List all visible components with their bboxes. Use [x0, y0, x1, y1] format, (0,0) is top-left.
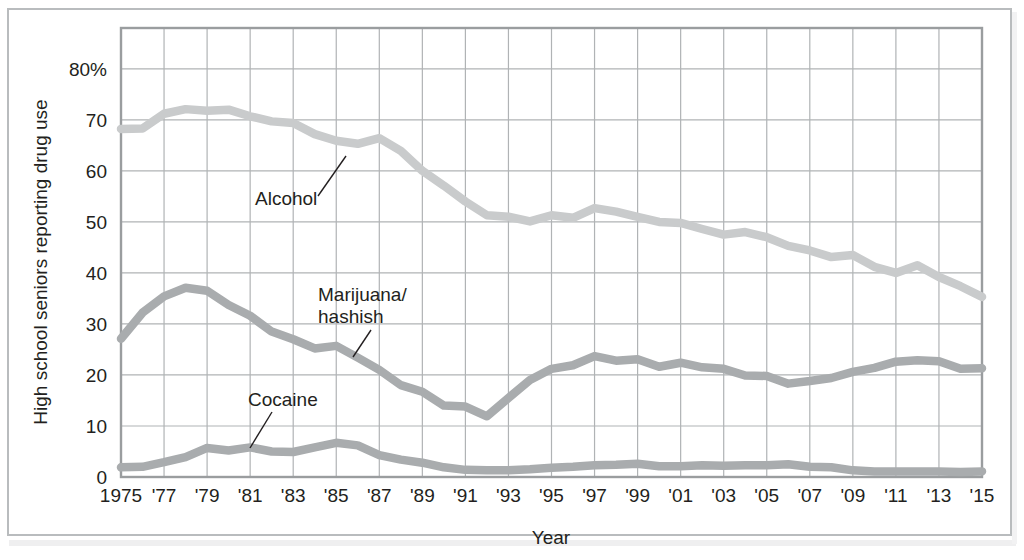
x-tick-label: '05: [754, 485, 779, 506]
y-tick-label: 10: [86, 416, 107, 437]
x-tick-label: '95: [539, 485, 564, 506]
y-tick-label: 80%: [69, 59, 107, 80]
x-tick-label: '99: [625, 485, 650, 506]
x-tick-label: '97: [582, 485, 607, 506]
y-axis-tick-labels: 01020304050607080%: [69, 59, 107, 488]
line-chart: 01020304050607080% 1975'77'79'81'83'85'8…: [0, 0, 1024, 560]
y-tick-label: 50: [86, 212, 107, 233]
annotation-label-alcohol: Alcohol: [255, 188, 317, 209]
y-tick-label: 40: [86, 263, 107, 284]
x-tick-label: '81: [238, 485, 263, 506]
x-tick-label: 1975: [100, 485, 142, 506]
annotation-label-marijuana: Marijuana/: [318, 284, 407, 305]
x-tick-label: '93: [496, 485, 521, 506]
x-tick-label: '11: [884, 485, 907, 506]
x-tick-label: '01: [668, 485, 693, 506]
y-axis-title: High school seniors reporting drug use: [30, 99, 51, 424]
leader-line-alcohol: [318, 156, 346, 196]
x-tick-label: '09: [840, 485, 865, 506]
figure-container: 01020304050607080% 1975'77'79'81'83'85'8…: [0, 0, 1024, 560]
leader-line-marijuana: [353, 330, 371, 357]
y-tick-label: 20: [86, 365, 107, 386]
leader-line-cocaine: [250, 412, 272, 448]
x-tick-label: '79: [195, 485, 220, 506]
x-tick-label: '83: [281, 485, 306, 506]
x-axis-title: Year: [532, 527, 571, 548]
x-tick-label: '91: [453, 485, 478, 506]
annotation-label-cocaine: Cocaine: [248, 389, 318, 410]
y-tick-label: 30: [86, 314, 107, 335]
x-tick-label: '77: [152, 485, 177, 506]
x-tick-label: '07: [797, 485, 822, 506]
x-tick-label: '13: [927, 485, 952, 506]
x-tick-label: '89: [410, 485, 435, 506]
y-tick-label: 70: [86, 110, 107, 131]
x-tick-label: '85: [324, 485, 349, 506]
x-axis-tick-labels: 1975'77'79'81'83'85'87'89'91'93'95'97'99…: [100, 485, 995, 506]
annotation-label-marijuana2: hashish: [318, 306, 384, 327]
y-tick-label: 60: [86, 161, 107, 182]
x-tick-label: '87: [367, 485, 392, 506]
x-tick-label: '03: [711, 485, 736, 506]
x-tick-label: '15: [970, 485, 995, 506]
